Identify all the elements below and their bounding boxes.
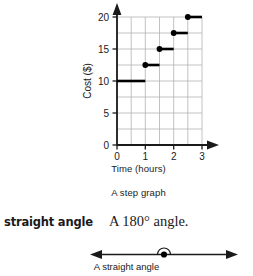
y-tick-label-5: 5: [103, 108, 109, 119]
y-tick-label-20: 20: [98, 12, 110, 23]
step-dot-2: [157, 46, 163, 52]
arrow-head-right-icon: [226, 250, 238, 259]
step-graph-figure: 20 15 10 5 0 0 1 2 3 Cost ($) Time (hour…: [0, 0, 253, 205]
step-graph-plot: 20 15 10 5 0 0 1 2 3 Cost ($): [0, 0, 253, 205]
glossary-entry: straight angle A 180° angle.: [0, 214, 253, 238]
step-dot-4: [185, 14, 191, 20]
step-endpoint-dots: [142, 14, 190, 68]
axis-label-y: Cost ($): [82, 63, 93, 99]
y-tick-label-10: 10: [98, 76, 110, 87]
y-tick-label-15: 15: [98, 44, 110, 55]
glossary-term: straight angle: [4, 215, 93, 229]
arrow-head-left-icon: [90, 250, 102, 259]
figure-caption-straight-angle: A straight angle: [0, 261, 253, 272]
y-tick-label-0: 0: [103, 140, 109, 151]
figure-caption-step-graph: A step graph: [24, 187, 253, 198]
step-dot-1: [142, 62, 148, 68]
straight-angle-figure: A straight angle: [0, 240, 253, 276]
x-tick-label-0: 0: [114, 151, 120, 162]
axis-label-x: Time (hours): [24, 163, 253, 174]
x-tick-label-1: 1: [143, 151, 149, 162]
glossary-definition: A 180° angle.: [109, 213, 189, 230]
y-axis: [113, 3, 122, 145]
x-axis: [117, 141, 219, 150]
x-tick-label-3: 3: [199, 151, 205, 162]
step-dot-3: [171, 30, 177, 36]
vertex-dot: [161, 251, 167, 257]
x-tick-label-2: 2: [171, 151, 177, 162]
